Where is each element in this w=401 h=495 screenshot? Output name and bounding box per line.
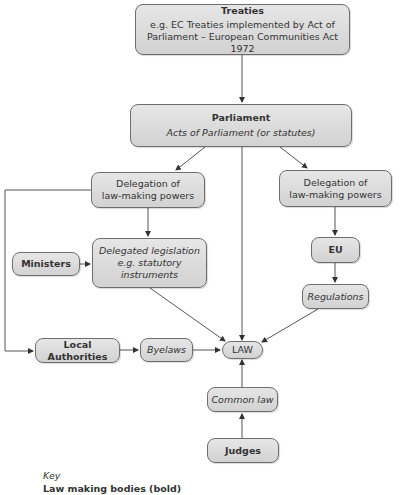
node-delegation-right: Delegation of law-making powers — [279, 170, 392, 207]
node-law: LAW — [222, 341, 263, 359]
treaties-line2: Parliament – European Communities Act 19… — [136, 31, 349, 55]
node-delegated-legislation: Delegated legislation e.g. statutory ins… — [92, 238, 207, 288]
common-law-label: Common law — [211, 394, 273, 406]
treaties-line1: e.g. EC Treaties implemented by Act of — [150, 19, 335, 31]
treaties-title: Treaties — [221, 5, 264, 17]
parliament-subtitle: Acts of Parliament (or statutes) — [167, 127, 316, 139]
parliament-title: Parliament — [212, 112, 270, 124]
key-heading: Key — [43, 470, 60, 481]
law-label: LAW — [232, 344, 253, 356]
delegated-legislation-line1: Delegated legislation — [99, 245, 200, 257]
node-local-authorities: Local Authorities — [35, 338, 120, 363]
delegation-right-line2: law-making powers — [289, 189, 381, 201]
node-regulations: Regulations — [302, 284, 369, 309]
delegation-left-line2: law-making powers — [102, 190, 194, 202]
key-item: Law making bodies (bold) — [43, 483, 181, 494]
node-judges: Judges — [207, 438, 279, 463]
node-byelaws: Byelaws — [140, 338, 193, 362]
delegation-left-line1: Delegation of — [116, 178, 180, 190]
local-authorities-label: Local Authorities — [36, 339, 119, 363]
node-treaties: Treaties e.g. EC Treaties implemented by… — [135, 4, 350, 55]
delegated-legislation-line2: e.g. statutory — [117, 257, 181, 269]
eu-label: EU — [328, 244, 342, 256]
node-ministers: Ministers — [12, 252, 80, 276]
node-eu: EU — [311, 237, 360, 263]
regulations-label: Regulations — [307, 291, 363, 303]
ministers-label: Ministers — [21, 258, 71, 270]
node-common-law: Common law — [207, 387, 278, 412]
byelaws-label: Byelaws — [147, 344, 186, 356]
delegation-right-line1: Delegation of — [304, 177, 368, 189]
node-delegation-left: Delegation of law-making powers — [91, 172, 205, 208]
delegated-legislation-line3: instruments — [121, 269, 178, 281]
judges-label: Judges — [225, 445, 261, 457]
node-parliament: Parliament Acts of Parliament (or statut… — [130, 104, 352, 147]
